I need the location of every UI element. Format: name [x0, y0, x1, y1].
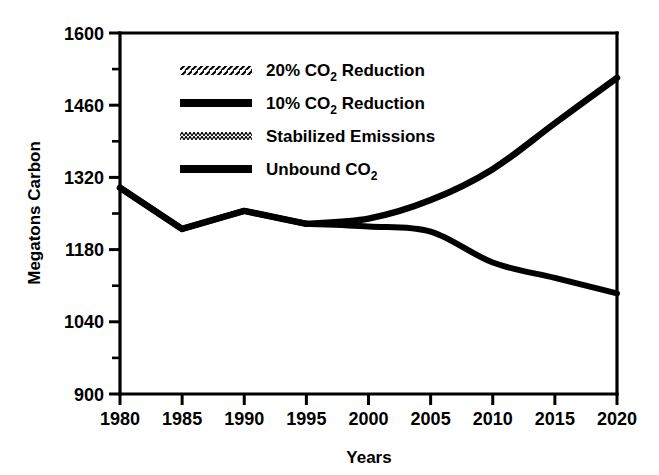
legend-label: Stabilized Emissions: [266, 127, 435, 146]
y-tick-label: 1180: [65, 240, 104, 260]
legend-swatch-dotted: [180, 132, 252, 140]
x-axis-title: Years: [346, 448, 391, 467]
legend-label-subscript: 2: [371, 169, 378, 183]
y-tick-label: 1320: [64, 168, 104, 188]
chart-series-group: [110, 20, 630, 460]
chart-figure: 90010401180132014601600 1980198519901995…: [0, 0, 659, 475]
y-tick-label: 1460: [64, 96, 104, 116]
line-chart: 90010401180132014601600 1980198519901995…: [0, 0, 659, 475]
y-axis-title: Megatons Carbon: [25, 141, 44, 285]
series-line-20pct-reduction: [110, 20, 630, 460]
y-tick-label: 900: [74, 385, 104, 405]
legend-swatch-solid: [180, 99, 252, 107]
legend-swatch-hatched: [180, 66, 252, 75]
y-tick-label: 1600: [64, 24, 104, 44]
y-tick-label: 1040: [64, 312, 104, 332]
legend-swatch-solid: [180, 165, 252, 173]
